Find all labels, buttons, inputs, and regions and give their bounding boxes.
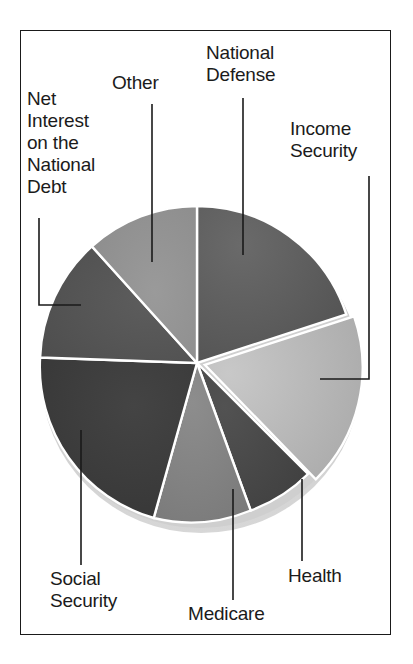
pie-chart-figure: Net Interest on the National Debt Other … bbox=[0, 0, 413, 664]
slice-label-social-security: Social Security bbox=[50, 568, 160, 612]
slice-label-net-interest: Net Interest on the National Debt bbox=[27, 88, 137, 198]
slice-label-other: Other bbox=[112, 72, 202, 94]
slice-label-medicare: Medicare bbox=[188, 603, 298, 625]
slice-label-health: Health bbox=[288, 565, 378, 587]
slice-label-income-security: Income Security bbox=[290, 118, 390, 162]
slice-label-national-defense: National Defense bbox=[206, 42, 316, 86]
